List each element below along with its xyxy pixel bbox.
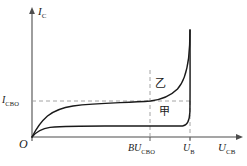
curve-yi: [32, 30, 190, 137]
figure-container: IC UCB O ICBO BUCBO UB 乙 甲: [0, 0, 247, 166]
y-tick-label-i-cbo: ICBO: [2, 95, 19, 108]
x-tick-label-bu-cbo-main: BU: [128, 142, 141, 153]
y-axis-label: IC: [38, 6, 46, 20]
y-axis-label-sub: C: [42, 12, 47, 20]
y-axis-arrowhead: [29, 7, 35, 14]
x-tick-label-bu-cbo: BUCBO: [128, 143, 155, 156]
x-axis-arrowhead: [236, 134, 243, 140]
x-tick-label-u-b: UB: [183, 143, 195, 156]
x-axis-label-main: U: [218, 141, 226, 153]
curve-label-yi: 乙: [155, 78, 166, 89]
curve-label-jia: 甲: [159, 106, 170, 117]
x-tick-label-u-b-sub: B: [190, 148, 194, 155]
y-tick-label-i-cbo-sub: CBO: [5, 100, 19, 107]
x-tick-label-bu-cbo-sub: CBO: [141, 148, 155, 155]
axes-group: [29, 7, 243, 141]
origin-label: O: [19, 138, 28, 150]
plot-canvas: [0, 0, 247, 166]
x-axis-label-sub: CB: [226, 148, 236, 156]
tick-marks-group: [150, 137, 190, 141]
x-axis-label: UCB: [218, 142, 236, 156]
curve-jia: [32, 30, 190, 137]
